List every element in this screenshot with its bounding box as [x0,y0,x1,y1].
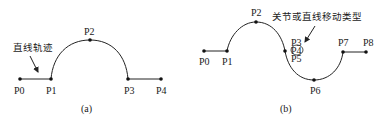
point-p2 [88,38,92,42]
diagram-b: P0 P1 P2 P3 P4 P5 P6 P7 P8 关节或直线移动类型 (b) [199,7,374,115]
annotation-joint-or-linear: 关节或直线移动类型 [272,11,362,22]
label-p2: P2 [251,7,262,18]
point-p2 [254,20,258,24]
diagram-a: P0 P1 P2 P3 P4 直线轨迹 (a) [13,26,167,115]
label-p6: P6 [310,85,321,96]
annotation-straight-line: 直线轨迹 [13,42,53,53]
label-p8: P8 [363,37,374,48]
point-p0 [202,49,206,53]
point-p3 [126,77,130,81]
point-p7 [341,50,345,54]
point-p1 [49,77,53,81]
annotation-arrow [305,26,315,42]
label-p0: P0 [199,56,210,67]
label-p0: P0 [14,85,25,96]
trajectory-diagram: P0 P1 P2 P3 P4 直线轨迹 (a) P0 P1 P2 P3 P4 P… [0,0,384,126]
annotation-arrow [30,56,38,72]
label-p3: P3 [124,85,135,96]
label-p4: P4 [156,85,167,96]
point-p0 [18,77,22,81]
label-p5: P5 [291,53,302,64]
point-p3 [283,49,287,53]
point-p6 [312,78,316,82]
label-p1: P1 [46,85,57,96]
point-p8 [364,50,368,54]
label-p2: P2 [84,26,95,37]
arc-p1-p3 [51,40,128,79]
caption-a: (a) [81,103,92,115]
label-p7: P7 [338,37,349,48]
point-p1 [225,49,229,53]
label-p1: P1 [222,56,233,67]
point-p4 [159,77,163,81]
caption-b: (b) [280,103,292,115]
